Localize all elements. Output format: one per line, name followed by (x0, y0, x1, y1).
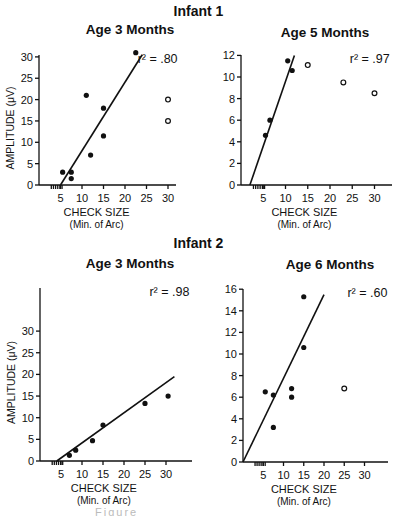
y-tick-label: 10 (225, 348, 237, 360)
y-tick-label: 30 (22, 325, 34, 337)
x-tick-label: 20 (119, 192, 131, 204)
x-tick-label: 30 (358, 469, 370, 481)
x-tick-label: 10 (76, 192, 88, 204)
x-tick-label: 15 (97, 468, 109, 480)
x-axis-label: CHECK SIZE (64, 206, 130, 218)
y-tick-label: 20 (22, 368, 34, 380)
data-point-filled (263, 133, 268, 138)
x-tick-label: 10 (76, 468, 88, 480)
data-point-filled (301, 345, 306, 350)
data-point-filled (90, 438, 95, 443)
y-tick-label: 10 (22, 412, 34, 424)
y-tick-label: 12 (225, 326, 237, 338)
data-point-filled (271, 425, 276, 430)
y-tick-label: 2 (229, 157, 235, 169)
x-tick-label: 5 (57, 192, 63, 204)
data-point-filled (101, 133, 106, 138)
x-tick-label: 10 (279, 192, 291, 204)
r-squared-annotation: r² = .97 (350, 52, 390, 66)
data-point-filled (285, 58, 290, 63)
data-point-filled (60, 170, 65, 175)
data-point-open (166, 119, 171, 124)
y-tick-label: 6 (229, 114, 235, 126)
x-axis-sublabel: (Min. of Arc) (77, 495, 131, 506)
y-tick-label: 10 (223, 71, 235, 83)
panel-infant2-age6: 024681012141651015202530CHECK SIZE(Min. … (225, 283, 388, 507)
x-tick-label: 30 (160, 468, 172, 480)
x-tick-label: 25 (139, 468, 151, 480)
y-tick-label: 0 (229, 179, 235, 191)
y-tick-label: 12 (223, 49, 235, 61)
x-tick-label: 25 (140, 192, 152, 204)
data-point-filled (67, 453, 72, 458)
y-tick-label: 15 (21, 115, 33, 127)
y-tick-label: 30 (21, 51, 33, 63)
y-tick-label: 2 (231, 434, 237, 446)
data-point-filled (267, 118, 272, 123)
y-axis-label: AMPLITUDE (μV) (5, 341, 17, 424)
x-tick-label: 30 (368, 192, 380, 204)
data-point-filled (166, 393, 171, 398)
data-point-open (342, 386, 347, 391)
x-tick-label: 20 (318, 469, 330, 481)
r-squared-annotation: r² = .98 (149, 285, 189, 299)
data-point-filled (263, 389, 268, 394)
x-tick-label: 5 (260, 469, 266, 481)
y-tick-label: 0 (28, 455, 34, 467)
y-tick-label: 5 (28, 433, 34, 445)
regression-line (243, 295, 324, 462)
x-tick-label: 10 (277, 469, 289, 481)
data-point-filled (69, 170, 74, 175)
data-point-open (372, 91, 377, 96)
x-axis-label: CHECK SIZE (271, 206, 337, 218)
y-tick-label: 25 (21, 72, 33, 84)
data-point-filled (271, 392, 276, 397)
data-point-filled (84, 93, 89, 98)
y-tick-label: 14 (225, 305, 237, 317)
x-axis-sublabel: (Min. of Arc) (70, 219, 124, 230)
y-tick-label: 10 (21, 136, 33, 148)
data-point-filled (142, 401, 147, 406)
y-axis-label: AMPLITUDE (μV) (4, 86, 16, 169)
regression-line (61, 55, 143, 185)
y-tick-label: 16 (225, 283, 237, 295)
data-point-filled (101, 106, 106, 111)
data-point-filled (88, 153, 93, 158)
x-axis-label: CHECK SIZE (71, 482, 137, 494)
x-axis-sublabel: (Min. of Arc) (277, 219, 331, 230)
data-point-filled (289, 395, 294, 400)
x-tick-label: 25 (346, 192, 358, 204)
y-tick-label: 0 (231, 456, 237, 468)
r-squared-annotation: r² = .60 (347, 286, 387, 300)
y-tick-label: 25 (22, 347, 34, 359)
y-tick-label: 8 (229, 93, 235, 105)
panel-infant2-age3: 05101520253051015202530CHECK SIZE(Min. o… (5, 285, 192, 506)
y-tick-label: 0 (27, 179, 33, 191)
x-tick-label: 5 (260, 192, 266, 204)
data-point-open (305, 63, 310, 68)
data-point-open (341, 80, 346, 85)
y-tick-label: 5 (27, 158, 33, 170)
r-squared-annotation: r² = .80 (138, 52, 178, 66)
y-tick-label: 20 (21, 94, 33, 106)
data-point-filled (73, 448, 78, 453)
x-tick-label: 15 (97, 192, 109, 204)
data-point-filled (100, 422, 105, 427)
x-tick-label: 15 (298, 469, 310, 481)
data-point-filled (69, 176, 74, 181)
x-tick-label: 20 (324, 192, 336, 204)
data-point-filled (289, 386, 294, 391)
x-tick-label: 20 (118, 468, 130, 480)
figure-caption: Figure (95, 506, 325, 516)
x-tick-label: 25 (338, 469, 350, 481)
figure-plots: 05101520253051015202530CHECK SIZE(Min. o… (0, 0, 397, 522)
y-tick-label: 8 (231, 370, 237, 382)
panel-infant1-age3: 05101520253051015202530CHECK SIZE(Min. o… (4, 50, 178, 230)
x-axis-label: CHECK SIZE (271, 483, 337, 495)
data-point-filled (301, 294, 306, 299)
data-point-open (166, 97, 171, 102)
y-tick-label: 4 (229, 136, 235, 148)
x-tick-label: 15 (302, 192, 314, 204)
data-point-filled (290, 68, 295, 73)
x-tick-label: 5 (58, 468, 64, 480)
